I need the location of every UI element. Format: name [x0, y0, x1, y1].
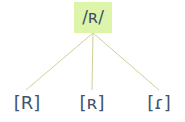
phoneme-root-label: /ʀ/	[82, 9, 104, 26]
edge-root-to-right	[93, 33, 159, 90]
allophone-label-left: [R]	[14, 92, 41, 113]
edge-root-to-middle	[92, 33, 93, 90]
phoneme-allophone-diagram: /ʀ/ [R] [ʀ] [ɾ]	[0, 0, 185, 122]
phoneme-root-node: /ʀ/	[74, 2, 112, 33]
edge-root-to-left	[26, 33, 93, 90]
allophone-node-right: [ɾ]	[136, 94, 182, 113]
allophone-node-left: [R]	[4, 94, 50, 113]
allophone-node-middle: [ʀ]	[69, 94, 115, 113]
allophone-label-right: [ɾ]	[147, 92, 171, 113]
allophone-label-middle: [ʀ]	[80, 92, 105, 113]
